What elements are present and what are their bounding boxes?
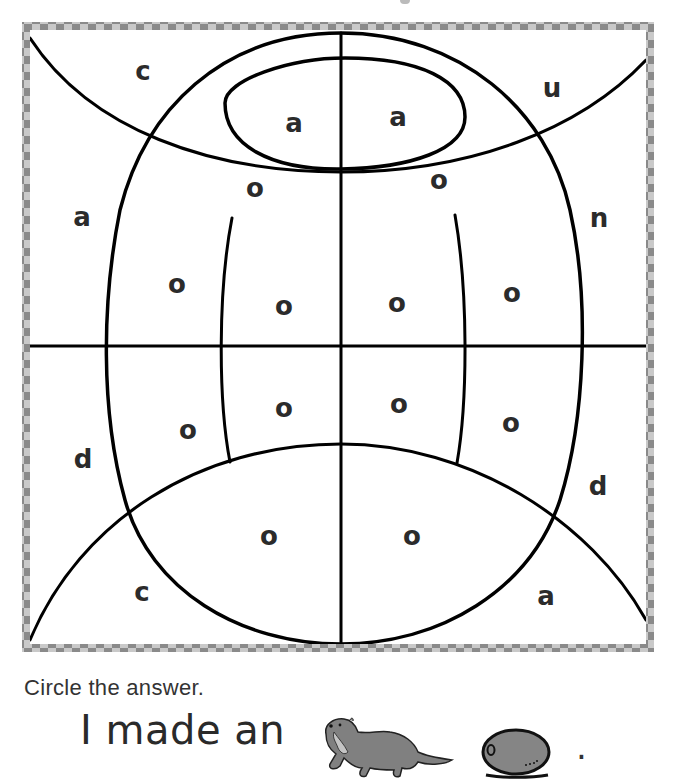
left-meridian bbox=[221, 218, 232, 462]
choice-olive[interactable] bbox=[476, 728, 556, 780]
region-letter-oval-midright-upper[interactable]: o bbox=[388, 288, 406, 318]
region-letter-oval-right-lower[interactable]: o bbox=[502, 408, 520, 438]
instruction-text: Circle the answer. bbox=[24, 675, 204, 701]
region-letter-bottom-band-left[interactable]: o bbox=[260, 521, 278, 551]
big-oval bbox=[106, 33, 582, 644]
region-letter-bottom-right-corner[interactable]: a bbox=[537, 581, 555, 611]
region-letter-inner-oval-left[interactable]: a bbox=[285, 108, 303, 138]
sentence-prefix: I made an bbox=[80, 707, 285, 753]
region-letter-right-outer-lower[interactable]: d bbox=[589, 471, 608, 501]
region-letter-oval-left-lower[interactable]: o bbox=[179, 415, 197, 445]
checkered-border bbox=[22, 22, 654, 652]
region-letter-oval-right-upper[interactable]: o bbox=[503, 278, 521, 308]
region-letter-oval-midright-lower[interactable]: o bbox=[390, 389, 408, 419]
region-letter-oval-midleft-lower[interactable]: o bbox=[275, 393, 293, 423]
region-letter-top-left-corner[interactable]: c bbox=[135, 56, 150, 86]
color-by-letter-puzzle: caauooanooooooooddooca bbox=[0, 0, 673, 660]
sentence-period: . bbox=[576, 727, 587, 767]
region-letter-bottom-left-corner[interactable]: c bbox=[134, 577, 149, 607]
choice-otter[interactable] bbox=[318, 712, 458, 780]
region-letter-right-outer-upper[interactable]: n bbox=[590, 203, 609, 233]
region-letter-top-right-corner[interactable]: u bbox=[543, 73, 562, 103]
otter-icon bbox=[318, 712, 458, 780]
region-letter-bottom-band-right[interactable]: o bbox=[403, 521, 421, 551]
olive-icon bbox=[476, 728, 556, 780]
inner-oval bbox=[225, 58, 465, 169]
region-letter-left-outer-lower[interactable]: d bbox=[74, 444, 93, 474]
region-letter-top-band-left[interactable]: o bbox=[246, 173, 264, 203]
region-letter-oval-left-upper[interactable]: o bbox=[168, 269, 186, 299]
right-meridian bbox=[455, 215, 465, 463]
region-letter-inner-oval-right[interactable]: a bbox=[389, 102, 407, 132]
region-letter-top-band-right[interactable]: o bbox=[430, 165, 448, 195]
region-letter-left-outer-upper[interactable]: a bbox=[73, 202, 91, 232]
region-letter-oval-midleft-upper[interactable]: o bbox=[275, 291, 293, 321]
